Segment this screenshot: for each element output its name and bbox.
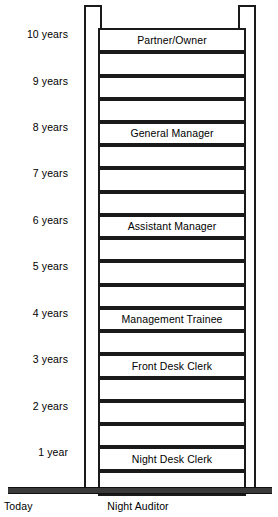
ladder-rung <box>98 145 246 168</box>
ladder-rung <box>98 378 246 401</box>
rung-label: Partner/Owner <box>137 35 207 46</box>
ladder-rung <box>98 331 246 354</box>
ladder-rung-titled: General Manager <box>98 122 246 145</box>
ladder-rungs: Partner/OwnerGeneral ManagerAssistant Ma… <box>98 22 246 492</box>
ladder-rung <box>98 285 246 308</box>
ladder-rung-titled: Assistant Manager <box>98 215 246 238</box>
today-label: Today <box>4 500 33 512</box>
ladder-rung <box>98 76 246 99</box>
rung-label: Management Trainee <box>121 314 222 325</box>
year-label: 7 years <box>0 167 68 179</box>
ladder-rung-titled: Partner/Owner <box>98 28 246 52</box>
rung-label: Night Desk Clerk <box>132 454 212 465</box>
current-position-label: Night Auditor <box>107 500 168 512</box>
career-ladder-diagram: 10 years9 years8 years7 years6 years5 ye… <box>0 0 278 517</box>
rung-label: Assistant Manager <box>128 221 217 232</box>
ladder-rung <box>98 261 246 285</box>
ground-line <box>8 487 272 494</box>
ladder-rung <box>98 424 246 447</box>
year-label: 9 years <box>0 75 68 87</box>
year-label: 4 years <box>0 307 68 319</box>
year-label: 1 year <box>0 446 68 458</box>
year-axis: 10 years9 years8 years7 years6 years5 ye… <box>0 0 72 490</box>
rung-label: General Manager <box>130 128 213 139</box>
ladder-rung <box>98 401 246 424</box>
ladder-rung <box>98 52 246 76</box>
year-label: 2 years <box>0 400 68 412</box>
year-label: 3 years <box>0 353 68 365</box>
ladder-rung-titled: Front Desk Clerk <box>98 354 246 378</box>
ladder-rung <box>98 168 246 192</box>
ladder-graphic: Partner/OwnerGeneral ManagerAssistant Ma… <box>84 5 256 492</box>
ladder-rung-titled: Management Trainee <box>98 308 246 331</box>
ladder-rung <box>98 238 246 261</box>
year-label: 5 years <box>0 260 68 272</box>
rung-label: Front Desk Clerk <box>132 361 212 372</box>
ladder-rung <box>98 99 246 122</box>
ladder-rung <box>98 192 246 215</box>
ladder-rung-titled: Night Desk Clerk <box>98 447 246 471</box>
year-label: 10 years <box>0 28 68 40</box>
year-label: 8 years <box>0 121 68 133</box>
year-label: 6 years <box>0 214 68 226</box>
